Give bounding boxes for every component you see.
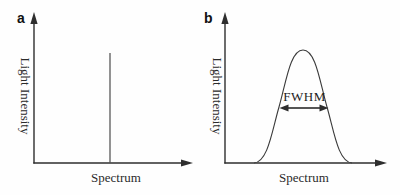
x-axis-arrow-icon (375, 159, 387, 166)
panel-a-plot: a Light Intensity Spectrum (0, 0, 200, 195)
y-axis-label: Light Intensity (18, 58, 33, 135)
panel-b-plot: b FWHM Light Intensity Spectrum (200, 0, 400, 195)
y-axis-arrow-icon (221, 12, 228, 24)
x-axis-arrow-icon (181, 159, 193, 166)
panel-b-label: b (204, 10, 213, 26)
panel-a-label: a (17, 10, 25, 26)
x-axis-label: Spectrum (279, 170, 329, 185)
panel-b: b FWHM Light Intensity Spectrum (200, 0, 400, 195)
panel-a: a Light Intensity Spectrum (0, 0, 200, 195)
fwhm-annotation: FWHM (283, 89, 325, 104)
y-axis-label: Light Intensity (210, 58, 225, 135)
x-axis-label: Spectrum (91, 170, 141, 185)
fwhm-left-arrow-icon (280, 105, 289, 112)
y-axis-arrow-icon (30, 12, 37, 24)
broad-band-curve (254, 50, 352, 163)
spectrum-figure: a Light Intensity Spectrum b (0, 0, 400, 195)
